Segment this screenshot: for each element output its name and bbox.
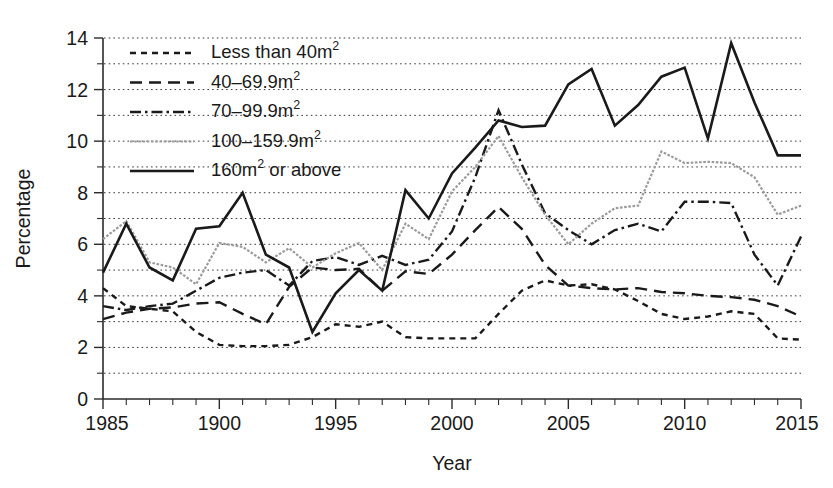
legend-label-3: 70–99.9m2 (211, 98, 300, 121)
y-axis-tick-labels: 02468101214 (66, 27, 88, 410)
y-tick-label: 10 (66, 130, 88, 152)
x-tick-label: 2000 (430, 412, 474, 434)
x-tick-label: 2005 (547, 412, 591, 434)
legend-label-1: Less than 40m2 (211, 39, 339, 62)
y-tick-label: 6 (77, 233, 88, 255)
x-tick-label: 1900 (198, 412, 242, 434)
y-axis-title: Percentage (12, 169, 34, 269)
y-tick-label: 12 (66, 79, 88, 101)
chart-container: 02468101214 1985190019952000200520102015… (0, 0, 833, 488)
x-tick-label: 2010 (663, 412, 707, 434)
chart-legend: Less than 40m240–69.9m270–99.9m2100–159.… (130, 39, 341, 180)
legend-label-4: 100–159.9m2 (211, 128, 321, 151)
x-axis-tick-labels: 1985190019952000200520102015 (85, 412, 819, 434)
y-tick-label: 8 (77, 182, 88, 204)
x-tick-label: 2015 (775, 412, 819, 434)
legend-label-2: 40–69.9m2 (211, 69, 300, 92)
gridlines (104, 38, 801, 373)
y-tick-label: 2 (77, 336, 88, 358)
y-tick-label: 4 (77, 285, 88, 307)
series-line-4 (103, 136, 801, 284)
x-axis-ticks (103, 399, 801, 409)
x-tick-label: 1995 (314, 412, 358, 434)
series-line-5 (103, 43, 801, 332)
series-line-1 (103, 280, 801, 346)
y-tick-label: 14 (66, 27, 88, 49)
series-line-3 (103, 110, 801, 310)
legend-label-5: 160m2 or above (211, 157, 341, 180)
y-axis-minor-ticks (97, 64, 103, 373)
line-chart: 02468101214 1985190019952000200520102015… (0, 0, 833, 488)
data-series-group (103, 43, 801, 346)
x-tick-label: 1985 (85, 412, 129, 434)
y-tick-label: 0 (77, 388, 88, 410)
x-axis-title: Year (432, 452, 472, 474)
